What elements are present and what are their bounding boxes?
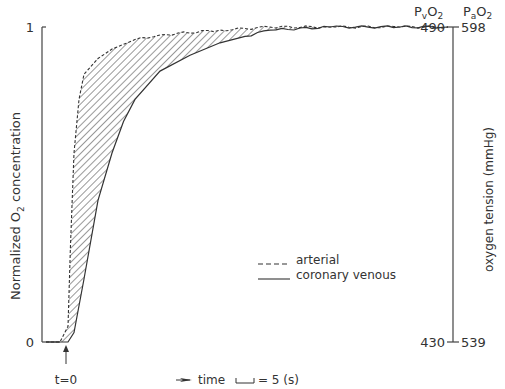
t0-arrow-head [63, 345, 69, 352]
legend-arterial-label: arterial [296, 253, 339, 267]
y-axis-label-right: oxygen tension (mmHg) [482, 127, 496, 272]
pvo2-bottom-label: 430 [420, 335, 445, 350]
left-tick-label-0: 0 [26, 335, 34, 350]
time-scale-label: = 5 (s) [258, 373, 299, 387]
legend-venous-label: coronary venous [296, 268, 396, 282]
chart: 1 0 Normalized O2 concentration PvO2 PaO… [0, 0, 505, 389]
x-axis-label: time [198, 373, 225, 387]
t0-label: t=0 [55, 373, 77, 387]
y-axis-label-left: Normalized O2 concentration [8, 112, 26, 300]
pao2-bottom-label: 539 [461, 335, 486, 350]
time-scale-bracket [236, 378, 254, 383]
difference-area [46, 26, 448, 342]
left-tick-label-1: 1 [26, 20, 34, 35]
pao2-top-label: 598 [461, 20, 486, 35]
pvo2-header: PvO2 [414, 4, 443, 21]
pao2-header: PaO2 [463, 4, 492, 21]
